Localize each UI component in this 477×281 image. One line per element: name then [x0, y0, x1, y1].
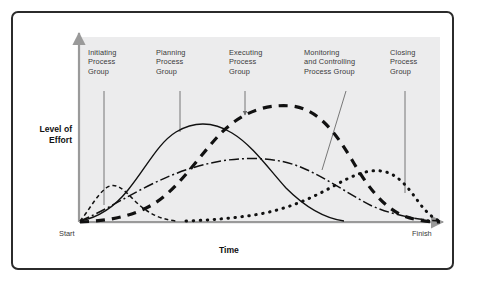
figure-root: Initiating Process Group Planning Proces…	[0, 0, 477, 281]
x-tick-finish: Finish	[412, 229, 432, 238]
label-closing: Closing Process Group	[390, 48, 417, 76]
label-monitoring: Monitoring and Controlling Process Group	[304, 48, 355, 76]
leader-lines	[104, 91, 405, 205]
y-axis-label: Level of Effort	[12, 124, 72, 145]
curve-executing	[80, 106, 440, 222]
curve-closing	[186, 171, 440, 221]
label-executing: Executing Process Group	[229, 48, 262, 76]
x-tick-start: Start	[59, 229, 75, 238]
label-planning: Planning Process Group	[156, 48, 186, 76]
curve-planning	[80, 124, 344, 221]
monitoring-leader	[322, 91, 346, 170]
curves	[80, 106, 440, 222]
x-axis-label: Time	[219, 245, 239, 256]
label-initiating: Initiating Process Group	[88, 48, 117, 76]
